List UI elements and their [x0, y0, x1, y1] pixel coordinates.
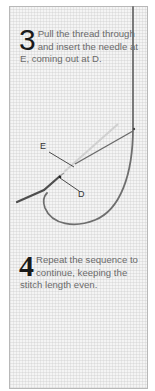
- thread: [44, 7, 133, 224]
- label-e: E: [40, 141, 46, 151]
- step-4-number: 4: [19, 255, 34, 277]
- point-d: [59, 176, 62, 179]
- thread-anchor: [133, 128, 135, 130]
- leader-d: [60, 178, 79, 191]
- needle-tip: [60, 173, 64, 176]
- step-4: 4 Repeat the sequence to continue, keepi…: [20, 254, 142, 292]
- leader-e: [49, 152, 74, 167]
- label-d: D: [78, 189, 85, 199]
- needle: [17, 176, 60, 202]
- step-4-text: Repeat the sequence to continue, keeping…: [20, 254, 138, 290]
- needle-shadow: [64, 124, 118, 172]
